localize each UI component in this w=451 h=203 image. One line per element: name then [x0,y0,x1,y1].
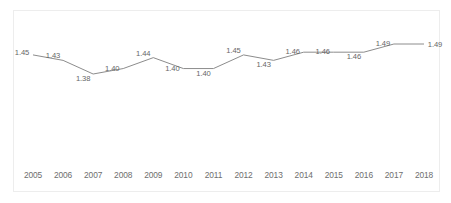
data-label: 1.45 [15,47,29,56]
x-axis-tick-label: 2006 [54,170,72,180]
x-axis-tick-label: 2012 [234,170,252,180]
x-axis-tick-label: 2005 [24,170,42,180]
x-axis-tick-label: 2009 [144,170,162,180]
data-label: 1.43 [46,51,60,60]
data-label: 1.46 [316,47,330,56]
data-label: 1.38 [76,74,90,83]
x-axis-tick-label: 2015 [325,170,343,180]
data-label: 1.40 [105,63,119,72]
plot-area-frame [13,10,440,192]
x-axis-tick-label: 2010 [174,170,192,180]
data-label: 1.43 [256,60,270,69]
x-axis-tick-label: 2011 [205,170,223,180]
data-label: 1.46 [285,47,299,56]
data-label: 1.49 [376,39,390,48]
data-label: 1.40 [165,63,179,72]
x-axis-tick-label: 2018 [415,170,433,180]
x-axis-tick-label: 2007 [84,170,102,180]
x-axis-tick-label: 2013 [264,170,282,180]
line-chart: 1.451.431.381.401.441.401.401.451.431.46… [0,0,451,203]
x-axis-tick-label: 2017 [385,170,403,180]
data-label: 1.44 [136,48,150,57]
x-axis-tick-label: 2008 [114,170,132,180]
x-axis-tick-label: 2016 [355,170,373,180]
data-label: 1.49 [428,40,442,49]
x-axis-tick-label: 2014 [295,170,313,180]
data-label: 1.40 [196,68,210,77]
data-label: 1.46 [347,52,361,61]
data-label: 1.45 [226,45,240,54]
